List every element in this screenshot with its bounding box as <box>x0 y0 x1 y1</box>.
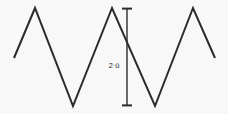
figure-background <box>0 0 228 114</box>
waveform-canvas: 2·û <box>0 0 228 114</box>
waveform-figure: 2·û <box>0 0 228 114</box>
peak-to-peak-dimension-label: 2·û <box>109 61 120 70</box>
